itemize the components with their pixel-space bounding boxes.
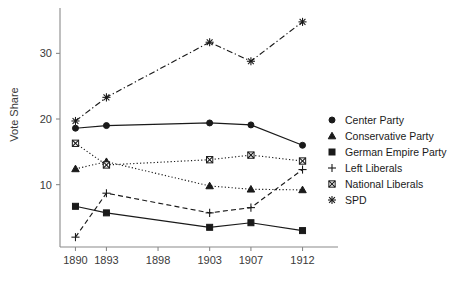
x-tick-label: 1912 <box>290 254 314 266</box>
data-point-marker-plus <box>298 166 306 174</box>
series-layer <box>71 18 306 241</box>
data-point-marker-filled-square <box>248 220 254 226</box>
data-point-marker-asterisk <box>206 38 214 46</box>
series-left-liberals <box>71 166 306 242</box>
legend-label: National Liberals <box>345 178 423 190</box>
series-center-party <box>72 120 305 148</box>
data-point-marker-filled-circle <box>248 122 254 128</box>
data-point-marker-plus <box>328 164 336 172</box>
legend-label: SPD <box>345 194 367 206</box>
data-point-marker-filled-triangle <box>206 182 214 189</box>
legend-item-german-empire-party[interactable]: German Empire Party <box>324 144 448 160</box>
data-point-marker-circle-cross <box>72 140 78 146</box>
axes <box>56 8 338 251</box>
legend-item-left-liberals[interactable]: Left Liberals <box>324 160 448 176</box>
y-tick-label: 30 <box>40 47 52 59</box>
data-point-marker-asterisk <box>102 93 110 101</box>
legend-marker-filled-circle-icon <box>324 113 340 127</box>
series-path <box>75 22 302 121</box>
series-path <box>75 170 302 238</box>
legend-label: German Empire Party <box>345 146 447 158</box>
series-national-liberals <box>72 140 305 168</box>
data-point-marker-circle-cross <box>206 157 212 163</box>
y-tick-label: 20 <box>40 113 52 125</box>
data-point-marker-circle-cross <box>329 181 335 187</box>
axis-labels: 102030189018931898190319071912Vote Share <box>8 47 315 266</box>
legend-marker-circle-cross-icon <box>324 177 340 191</box>
data-point-marker-plus <box>206 209 214 217</box>
legend-item-national-liberals[interactable]: National Liberals <box>324 176 448 192</box>
data-point-marker-filled-circle <box>300 142 306 148</box>
data-point-marker-filled-square <box>207 224 213 230</box>
legend-marker-plus-icon <box>324 161 340 175</box>
data-point-marker-circle-cross <box>299 158 305 164</box>
data-point-marker-asterisk <box>247 57 255 65</box>
data-point-marker-filled-triangle <box>72 165 80 172</box>
series-german-empire-party <box>72 203 305 233</box>
legend-label: Center Party <box>345 114 404 126</box>
data-point-marker-circle-cross <box>248 152 254 158</box>
legend-label: Left Liberals <box>345 162 402 174</box>
legend-label: Conservative Party <box>345 130 434 142</box>
data-point-marker-plus <box>102 189 110 197</box>
legend-item-center-party[interactable]: Center Party <box>324 112 448 128</box>
legend-item-conservative-party[interactable]: Conservative Party <box>324 128 448 144</box>
legend-marker-filled-triangle-icon <box>324 129 340 143</box>
data-point-marker-filled-square <box>329 149 335 155</box>
x-tick-label: 1903 <box>197 254 221 266</box>
data-point-marker-filled-circle <box>103 123 109 129</box>
series-spd <box>71 18 306 125</box>
data-point-marker-filled-square <box>300 228 306 234</box>
y-axis-title: Vote Share <box>8 87 20 141</box>
data-point-marker-asterisk <box>71 117 79 125</box>
data-point-marker-filled-triangle <box>328 132 336 139</box>
x-tick-label: 1890 <box>63 254 87 266</box>
data-point-marker-filled-circle <box>72 125 78 131</box>
y-tick-label: 10 <box>40 179 52 191</box>
legend-marker-asterisk-icon <box>324 193 340 207</box>
data-point-marker-circle-cross <box>103 162 109 168</box>
data-point-marker-filled-triangle <box>247 185 255 192</box>
data-point-marker-filled-square <box>103 210 109 216</box>
data-point-marker-asterisk <box>328 196 336 204</box>
data-point-marker-plus <box>247 204 255 212</box>
vote-share-line-chart: 102030189018931898190319071912Vote Share… <box>0 0 450 290</box>
x-tick-label: 1898 <box>146 254 170 266</box>
legend-item-spd[interactable]: SPD <box>324 192 448 208</box>
x-tick-label: 1893 <box>94 254 118 266</box>
data-point-marker-asterisk <box>298 18 306 26</box>
chart-legend: Center PartyConservative PartyGerman Emp… <box>324 112 448 208</box>
data-point-marker-filled-circle <box>207 120 213 126</box>
data-point-marker-filled-square <box>72 203 78 209</box>
legend-marker-filled-square-icon <box>324 145 340 159</box>
x-tick-label: 1907 <box>239 254 263 266</box>
data-point-marker-plus <box>71 233 79 241</box>
data-point-marker-filled-circle <box>329 117 335 123</box>
